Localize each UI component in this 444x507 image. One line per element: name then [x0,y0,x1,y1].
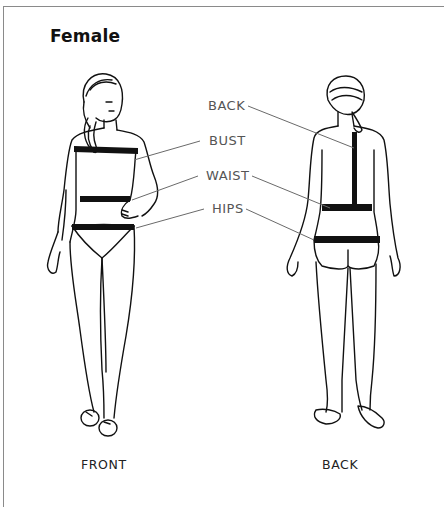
hips-leader-line-front [136,209,204,228]
waist-leader-line-front [132,176,198,200]
caption-front: FRONT [81,457,127,472]
measurement-bands [72,132,380,243]
label-hips: HIPS [212,201,244,216]
front-figure [48,74,158,436]
front-waist-band [80,196,130,202]
back-figure [287,76,400,428]
label-waist: WAIST [206,168,250,183]
hips-leader-line-back [246,209,314,240]
waist-leader-line-back [252,176,330,208]
front-bust-band [74,146,138,154]
label-back: BACK [208,98,245,113]
caption-back: BACK [322,457,358,472]
label-bust: BUST [209,133,246,148]
back-hips-band [314,236,380,243]
front-hips-band [72,224,134,230]
back-length-band [352,132,357,208]
